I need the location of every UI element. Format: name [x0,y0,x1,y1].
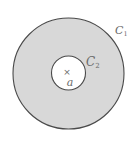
point-marker: × [63,67,71,77]
annulus-diagram: × a C2 C1 [0,0,133,142]
label-c2-sub: 2 [95,62,99,70]
point-label-a: a [67,76,74,89]
label-c2-main: C [86,55,95,69]
label-c1-sub: 1 [123,30,127,38]
